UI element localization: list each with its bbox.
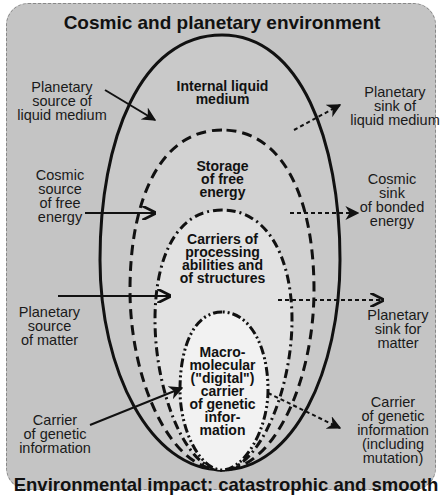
layer-label-genetic-carrier: Macro- molecular ("digital") carrier of … (180, 346, 265, 437)
layer-label-processing: Carriers of processing abilities and of … (165, 233, 280, 285)
layer-label-free-energy: Storage of free energy (170, 160, 275, 199)
label-planetary-source-matter: Planetary source of matter (12, 305, 87, 347)
label-genetic-sink: Carrier of genetic information (includin… (348, 395, 438, 465)
label-planetary-source-liquid: Planetary source of liquid medium (12, 80, 112, 122)
label-cosmic-source-energy: Cosmic source of free energy (30, 168, 90, 224)
bottom-title: Environmental impact: catastrophic and s… (4, 474, 444, 496)
label-planetary-sink-matter: Planetary sink for matter (358, 308, 438, 350)
top-title: Cosmic and planetary environment (0, 12, 444, 34)
label-cosmic-sink-energy: Cosmic sink of bonded energy (352, 172, 432, 228)
layer-label-liquid-medium: Internal liquid medium (160, 80, 285, 106)
label-genetic-source: Carrier of genetic information (15, 413, 95, 455)
label-planetary-sink-liquid: Planetary sink of liquid medium (345, 85, 444, 127)
